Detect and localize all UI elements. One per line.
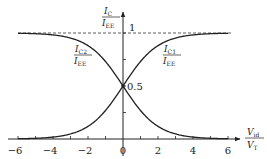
svg-text:IEE: IEE xyxy=(73,56,86,67)
y-label-half: 0.5 xyxy=(127,81,143,92)
curve-ic1-label: IC1 IEE xyxy=(162,44,181,67)
transfer-characteristic-chart: −6−4−20246 1 0.5 IC IEE IC2 IEE IC1 IEE … xyxy=(0,0,267,159)
y-label-one: 1 xyxy=(129,22,135,33)
svg-text:IC: IC xyxy=(103,6,113,17)
svg-text:2: 2 xyxy=(155,145,161,156)
svg-text:VT: VT xyxy=(247,140,258,151)
svg-text:−4: −4 xyxy=(43,145,58,156)
svg-text:4: 4 xyxy=(190,145,196,156)
crossing-point xyxy=(121,84,125,88)
svg-text:−2: −2 xyxy=(78,145,93,156)
svg-text:IEE: IEE xyxy=(101,18,114,29)
svg-text:−6: −6 xyxy=(8,145,23,156)
svg-text:Vid: Vid xyxy=(247,127,259,138)
y-axis-label: IC IEE xyxy=(101,6,120,29)
svg-text:IC2: IC2 xyxy=(74,44,87,55)
x-axis-tick-labels: −6−4−20246 xyxy=(8,145,232,156)
svg-text:6: 6 xyxy=(225,145,231,156)
x-axis-label: Vid VT xyxy=(245,127,264,151)
curve-ic2-label: IC2 IEE xyxy=(73,44,92,67)
svg-text:IC1: IC1 xyxy=(163,44,176,55)
svg-text:0: 0 xyxy=(120,145,126,156)
svg-text:IEE: IEE xyxy=(162,56,175,67)
